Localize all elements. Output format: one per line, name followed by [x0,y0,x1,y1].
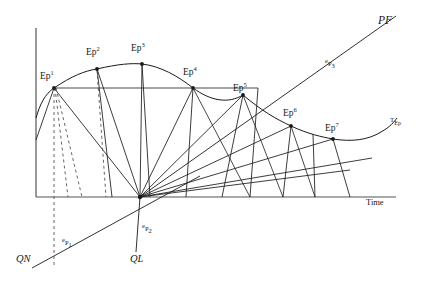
fan-ray-to-ep3 [140,64,142,197]
ep7-label: Ep7 [325,121,340,133]
pf-line-group [140,16,396,197]
fan-ray-extra-1 [140,158,372,197]
ep5-label: Ep5 [233,81,247,93]
ql-line [136,197,140,252]
drop-line-ep3 [142,64,150,197]
drop-line-ep7 [333,139,350,197]
ep-point-marker[interactable] [95,67,99,71]
fan-ray-to-ep6 [140,126,291,197]
ep-point-marker[interactable] [241,93,245,97]
ep3-ray-label: eP3 [325,57,335,69]
ep1-ray-label: eP1 [62,236,72,248]
dashed-slant-ep1-b [56,88,82,197]
ep-curve [36,64,397,141]
ep4-label: Ep4 [183,65,198,77]
time-axis-label: Time [366,197,384,207]
ep1-label: Ep1 [40,69,54,81]
ep-curve-group [36,64,397,141]
baseline-labels-group: QN QL [16,253,144,264]
pf-line [140,16,396,197]
ep-point-marker[interactable] [140,62,144,66]
dashed-slant-ep1-a [55,88,68,197]
ql-line-group [136,197,140,252]
ep-labels-group: Ep1 Ep2 Ep3 Ep4 Ep5 Ep6 Ep7 [40,41,340,133]
pf-label: PF [377,14,393,26]
qn-line [32,176,200,268]
ep-point-marker[interactable] [52,86,56,90]
drop-line-ep1-left [36,88,54,140]
qn-line-group [32,176,200,268]
ql-label: QL [130,253,144,264]
ep2-label: Ep2 [86,45,100,57]
ep-point-marker[interactable] [331,137,335,141]
fan-ray-to-ep4 [140,88,193,197]
ep2-ray-label: eP2 [142,222,152,234]
fan-origin-marker[interactable] [138,195,142,199]
ep-point-marker[interactable] [289,124,293,128]
drop-line-ep6 [283,126,291,197]
ep-point-marker[interactable] [191,86,195,90]
chord-ep6-ep7 [291,126,315,197]
axis-labels-group: Time [366,197,384,207]
ep3-label: Ep3 [131,41,145,53]
qn-label: QN [16,253,32,264]
drop-line-mid-b [313,134,315,197]
diagram-svg: Ep1 Ep2 Ep3 Ep4 Ep5 Ep6 Ep7 PF [0,0,432,287]
ep6-label: Ep6 [283,106,298,118]
diagram-canvas: Ep1 Ep2 Ep3 Ep4 Ep5 Ep6 Ep7 PF [0,0,432,287]
fan-ray-to-ep1 [54,88,140,197]
pf-labels-group: PF eP3 [325,14,393,69]
fan-ray-extra-2 [140,170,350,197]
